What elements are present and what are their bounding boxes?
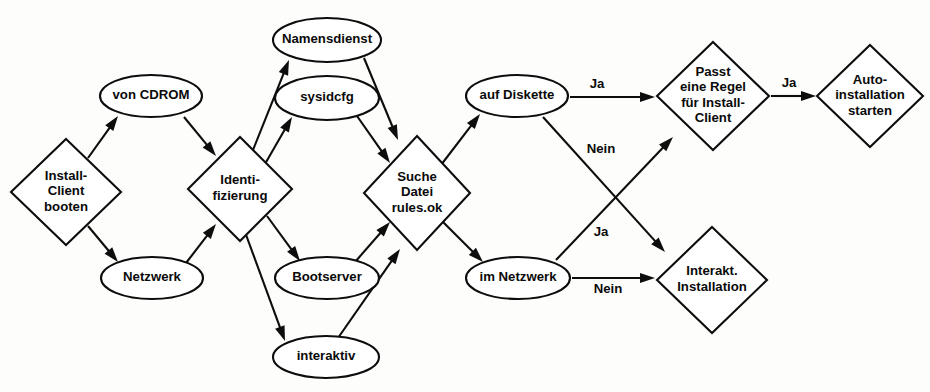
- edge-label-e17: Ja: [594, 224, 609, 239]
- edge-suche-datei-rules-ok-to-im-netzwerk: [443, 222, 483, 262]
- node-auf-diskette[interactable]: auf Diskette: [466, 75, 568, 117]
- arrowhead-icon: [203, 224, 216, 239]
- arrowhead-icon: [640, 92, 655, 102]
- edge-line: [186, 234, 208, 263]
- arrowhead-icon: [467, 114, 480, 129]
- edge-line: [88, 127, 110, 158]
- node-von-cdrom[interactable]: von CDROM: [100, 75, 202, 117]
- flowchart-canvas: Install-Clientbootenvon CDROMNetzwerkIde…: [0, 0, 930, 392]
- edge-netzwerk-to-identifizierung: [186, 224, 216, 263]
- node-netzwerk[interactable]: Netzwerk: [101, 257, 203, 299]
- edge-line: [265, 128, 286, 164]
- arrowhead-icon: [287, 246, 300, 261]
- node-label: sysidcfg: [300, 89, 354, 104]
- edge-label-e18: Nein: [594, 281, 623, 296]
- edge-sysidcfg-to-suche-datei-rules-ok: [357, 116, 390, 163]
- node-identifizierung[interactable]: Identi-fizierung: [188, 137, 292, 241]
- arrowhead-icon: [105, 116, 118, 131]
- edge-label-e16: Nein: [587, 141, 616, 156]
- node-label: von CDROM: [113, 87, 190, 102]
- edge-identifizierung-to-bootserver: [267, 216, 300, 261]
- edge-line: [251, 72, 284, 155]
- node-interakt-installation[interactable]: Interakt.Installation: [657, 227, 767, 333]
- arrowhead-icon: [275, 325, 285, 341]
- node-sysidcfg[interactable]: sysidcfg: [275, 76, 379, 120]
- node-label: auf Diskette: [480, 87, 555, 102]
- arrowhead-icon: [280, 117, 292, 132]
- edge-bootserver-to-suche-datei-rules-ok: [355, 222, 390, 262]
- edge-line: [88, 226, 110, 252]
- node-label: im Netzwerk: [480, 269, 558, 284]
- edge-label-e19: Ja: [782, 75, 797, 90]
- arrowhead-icon: [640, 273, 655, 283]
- node-label: Namensdienst: [282, 31, 373, 46]
- arrowhead-icon: [377, 148, 390, 163]
- edge-line: [355, 232, 381, 262]
- node-install-client-booten[interactable]: Install-Clientbooten: [11, 139, 121, 245]
- edge-von-cdrom-to-identifizierung: [184, 117, 216, 156]
- edge-identifizierung-to-sysidcfg: [265, 117, 292, 164]
- node-passt-eine-regel[interactable]: Passteine Regelfür Install-Client: [657, 42, 769, 150]
- edge-auf-diskette-to-passt-eine-regel: [570, 92, 655, 102]
- edge-install-client-booten-to-netzwerk: [88, 226, 118, 262]
- edge-line: [443, 222, 474, 253]
- edge-line: [441, 124, 472, 165]
- node-label: Netzwerk: [123, 269, 182, 284]
- edge-line: [267, 216, 292, 251]
- edge-install-client-booten-to-von-cdrom: [88, 116, 118, 158]
- node-label: Bootserver: [292, 269, 362, 284]
- node-namensdienst[interactable]: Namensdienst: [273, 18, 381, 62]
- arrowhead-icon: [801, 91, 816, 101]
- edge-passt-eine-regel-to-auto-installation-starten: [771, 91, 816, 101]
- node-label: interaktiv: [297, 348, 356, 363]
- arrowhead-icon: [388, 124, 398, 140]
- node-label: Install-Clientbooten: [44, 168, 88, 214]
- node-interaktiv[interactable]: interaktiv: [273, 336, 379, 378]
- edge-line: [556, 146, 664, 260]
- arrowhead-icon: [279, 60, 289, 76]
- node-label: Identi-fizierung: [213, 173, 268, 204]
- node-auto-installation-starten[interactable]: Auto-installationstarten: [817, 45, 923, 147]
- node-label: Interakt.Installation: [677, 264, 747, 295]
- edge-line: [357, 116, 383, 152]
- edge-line: [184, 117, 208, 146]
- node-bootserver[interactable]: Bootserver: [275, 257, 379, 299]
- edge-suche-datei-rules-ok-to-auf-diskette: [441, 114, 480, 165]
- edge-label-e15: Ja: [590, 76, 605, 91]
- flowchart-diagram: Install-Clientbootenvon CDROMNetzwerkIde…: [0, 0, 930, 392]
- arrowhead-icon: [387, 249, 400, 264]
- node-im-netzwerk[interactable]: im Netzwerk: [466, 257, 570, 299]
- nodes-layer: Install-Clientbootenvon CDROMNetzwerkIde…: [11, 18, 923, 378]
